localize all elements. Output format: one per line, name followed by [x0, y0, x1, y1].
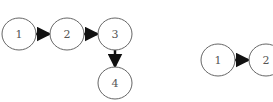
node-4: 4 — [98, 67, 132, 99]
node-3: 3 — [98, 18, 132, 50]
node-label: 4 — [112, 77, 119, 90]
diagram-canvas: 123412 — [0, 0, 273, 102]
node-label: 3 — [112, 28, 119, 41]
node-2: 2 — [249, 44, 273, 76]
node-1: 1 — [201, 44, 235, 76]
node-label: 2 — [64, 28, 71, 41]
node-label: 1 — [16, 28, 23, 41]
node-label: 2 — [263, 54, 270, 67]
node-2: 2 — [50, 18, 84, 50]
node-1: 1 — [2, 18, 36, 50]
node-label: 1 — [215, 54, 222, 67]
